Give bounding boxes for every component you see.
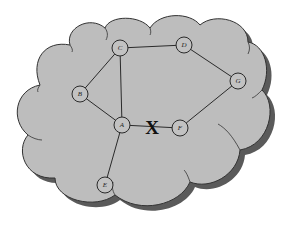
broken-link-marker: X — [145, 117, 159, 138]
node-b: B — [72, 86, 88, 102]
node-c: C — [112, 40, 128, 56]
node-label: A — [119, 121, 125, 129]
node-e: E — [97, 177, 113, 193]
network-diagram: ABCDEFG X — [0, 0, 291, 237]
node-label: C — [118, 44, 123, 52]
node-label: D — [180, 41, 186, 49]
node-d: D — [176, 37, 192, 53]
node-label: E — [102, 181, 108, 189]
node-label: G — [235, 77, 240, 85]
node-label: F — [177, 124, 183, 132]
node-a: A — [114, 117, 130, 133]
node-g: G — [230, 73, 246, 89]
node-label: B — [78, 90, 83, 98]
node-f: F — [172, 120, 188, 136]
